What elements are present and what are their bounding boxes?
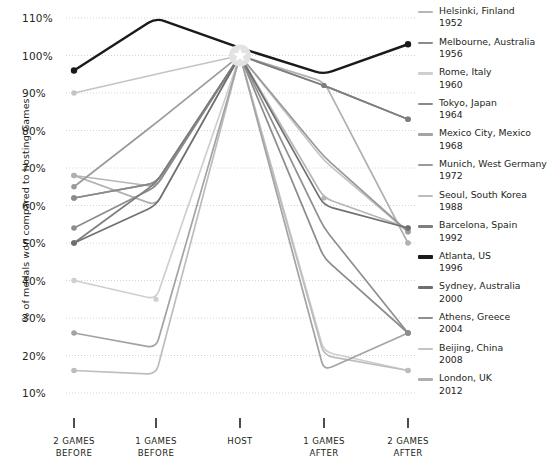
series-endpoint-marker	[71, 90, 77, 96]
legend-year: 1992	[439, 232, 517, 244]
legend-color-swatch	[418, 103, 433, 105]
series-line[interactable]	[71, 59, 411, 335]
y-axis-tick-labels: 110%100%90%80%70%60%50%40%30%20%10%	[22, 0, 66, 474]
legend-item[interactable]: Rome, Italy1960	[418, 66, 492, 91]
legend-item[interactable]: Seoul, South Korea1988	[418, 189, 527, 214]
legend-year: 1952	[439, 17, 515, 29]
legend-item[interactable]: London, UK2012	[418, 372, 492, 397]
y-tick-label: 110%	[22, 12, 66, 24]
legend-color-swatch	[418, 42, 433, 44]
legend-label: Beijing, China2008	[439, 342, 503, 367]
series-line[interactable]	[71, 59, 411, 245]
legend-item[interactable]: Beijing, China2008	[418, 342, 503, 367]
series-line[interactable]	[71, 59, 411, 230]
legend-item[interactable]: Barcelona, Spain1992	[418, 219, 517, 244]
legend-city: Atlanta, US	[439, 250, 491, 261]
x-tick-label-line1: 2 GAMES	[29, 436, 119, 448]
series-endpoint-marker	[71, 225, 77, 231]
legend-item[interactable]: Helsinki, Finland1952	[418, 5, 515, 30]
series-endpoint-marker	[405, 368, 411, 374]
legend-label: Athens, Greece2004	[439, 311, 510, 336]
series-mid-marker	[153, 297, 158, 302]
legend-year: 2000	[439, 293, 520, 305]
series-path	[74, 58, 408, 198]
x-tick-label: 2 GAMESBEFORE	[29, 436, 119, 459]
y-tick-label: 90%	[22, 87, 66, 99]
legend: Helsinki, Finland1952Melbourne, Australi…	[418, 0, 553, 474]
series-endpoint-marker	[405, 330, 411, 336]
series-endpoint-marker	[71, 368, 77, 374]
legend-color-swatch	[418, 348, 433, 350]
legend-year: 2012	[439, 385, 492, 397]
series-line[interactable]	[71, 60, 411, 374]
x-tick-label: 1 GAMESAFTER	[279, 436, 369, 459]
legend-city: Sydney, Australia	[439, 280, 520, 291]
legend-city: Tokyo, Japan	[439, 97, 497, 108]
legend-year: 2004	[439, 323, 510, 335]
legend-label: Rome, Italy1960	[439, 66, 492, 91]
y-tick-label: 40%	[22, 275, 66, 287]
series-endpoint-marker	[71, 240, 77, 246]
legend-item[interactable]: Athens, Greece2004	[418, 311, 510, 336]
legend-color-swatch	[418, 164, 433, 166]
legend-color-swatch	[418, 317, 433, 319]
legend-year: 1996	[439, 262, 491, 274]
legend-item[interactable]: Mexico City, Mexico1968	[418, 127, 531, 152]
legend-item[interactable]: Melbourne, Australia1956	[418, 36, 535, 61]
legend-item[interactable]: Tokyo, Japan1964	[418, 97, 497, 122]
series-endpoint-marker	[71, 173, 77, 179]
y-tick-label: 70%	[22, 162, 66, 174]
legend-item[interactable]: Atlanta, US1996	[418, 250, 491, 275]
legend-color-swatch	[418, 255, 433, 258]
series-line[interactable]	[71, 57, 411, 245]
medals-parallel-coordinates-chart: % of medals won compared to hosting Game…	[0, 0, 553, 474]
legend-city: Seoul, South Korea	[439, 189, 527, 200]
legend-label: Barcelona, Spain1992	[439, 219, 517, 244]
legend-item[interactable]: Sydney, Australia2000	[418, 280, 520, 305]
series-line[interactable]	[71, 59, 411, 335]
series-endpoint-marker	[71, 195, 77, 201]
legend-year: 2008	[439, 354, 503, 366]
legend-city: Helsinki, Finland	[439, 5, 515, 16]
legend-label: Mexico City, Mexico1968	[439, 127, 531, 152]
x-tick-label: HOST	[195, 436, 285, 448]
legend-color-swatch	[418, 225, 433, 227]
legend-color-swatch	[418, 195, 433, 197]
series-endpoint-marker	[71, 278, 77, 284]
legend-color-swatch	[418, 286, 433, 288]
legend-year: 1988	[439, 201, 527, 213]
legend-label: Atlanta, US1996	[439, 250, 491, 275]
legend-city: Rome, Italy	[439, 66, 492, 77]
series-line[interactable]	[71, 60, 411, 368]
x-tick-label-line2: AFTER	[279, 448, 369, 460]
legend-color-swatch	[418, 133, 433, 135]
series-mid-marker	[321, 83, 326, 88]
x-tick-label-line1: 1 GAMES	[279, 436, 369, 448]
legend-label: Melbourne, Australia1956	[439, 36, 535, 61]
y-tick-label: 50%	[22, 237, 66, 249]
x-tick-label: 1 GAMESBEFORE	[111, 436, 201, 459]
legend-city: Munich, West Germany	[439, 158, 547, 169]
series-line[interactable]	[71, 58, 411, 201]
series-endpoint-marker	[405, 240, 411, 246]
series-endpoint-marker	[405, 116, 411, 122]
legend-city: Beijing, China	[439, 342, 503, 353]
legend-label: Tokyo, Japan1964	[439, 97, 497, 122]
series-line[interactable]	[71, 60, 411, 374]
legend-color-swatch	[418, 72, 433, 74]
series-endpoint-marker	[71, 184, 77, 190]
legend-year: 1972	[439, 170, 547, 182]
series-path	[74, 60, 408, 374]
legend-year: 1964	[439, 109, 497, 121]
legend-color-swatch	[418, 11, 433, 13]
legend-item[interactable]: Munich, West Germany1972	[418, 158, 547, 183]
x-tick-label-line1: 1 GAMES	[111, 436, 201, 448]
legend-year: 1968	[439, 140, 531, 152]
legend-year: 1960	[439, 79, 492, 91]
y-tick-label: 10%	[22, 387, 66, 399]
series-mid-marker	[321, 195, 326, 200]
legend-label: Seoul, South Korea1988	[439, 189, 527, 214]
legend-year: 1956	[439, 48, 535, 60]
series-endpoint-marker	[71, 67, 77, 73]
legend-color-swatch	[418, 378, 433, 380]
